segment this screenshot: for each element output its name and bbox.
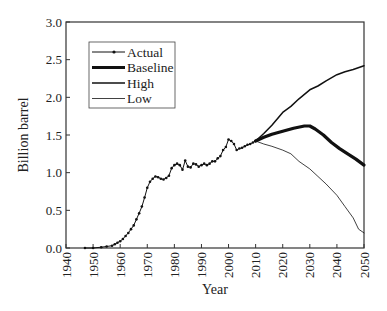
legend-label: High: [127, 76, 154, 91]
data-point: [222, 149, 225, 152]
data-point: [225, 146, 228, 149]
x-axis-title: Year: [202, 282, 228, 297]
data-point: [178, 164, 181, 167]
data-point: [151, 177, 154, 180]
data-point: [246, 143, 249, 146]
x-tick-label: 2030: [302, 252, 317, 278]
data-point: [127, 232, 130, 235]
y-axis-title: Billion barrel: [16, 97, 31, 172]
data-point: [84, 247, 87, 250]
data-point: [184, 159, 187, 162]
data-point: [176, 162, 179, 165]
x-tick-label: 1970: [140, 252, 155, 278]
data-point: [252, 141, 255, 144]
data-point: [132, 224, 135, 227]
data-point: [130, 228, 133, 231]
x-tick-label: 1980: [167, 252, 182, 278]
data-point: [105, 245, 108, 248]
data-point: [92, 247, 95, 250]
series-baseline: [256, 126, 364, 165]
series-actual: [84, 138, 257, 249]
data-point: [187, 165, 190, 168]
data-point: [195, 163, 198, 166]
y-tick-label: 1.5: [46, 128, 62, 143]
data-point: [100, 246, 103, 249]
x-axis: 1940195019601970198019902000201020202030…: [59, 244, 372, 278]
data-point: [168, 174, 171, 177]
data-point: [119, 240, 122, 243]
data-point: [113, 243, 116, 246]
x-tick-label: 2010: [248, 252, 263, 278]
x-tick-label: 2050: [357, 252, 372, 278]
y-tick-label: 0.5: [46, 203, 62, 218]
data-point: [192, 162, 195, 165]
data-point: [244, 145, 247, 148]
line-chart: 0.00.51.01.52.02.53.0 194019501960197019…: [0, 0, 387, 311]
data-point: [208, 162, 211, 165]
data-point: [206, 164, 209, 167]
data-point: [162, 178, 165, 181]
x-tick-label: 2020: [275, 252, 290, 278]
data-point: [230, 140, 233, 143]
data-point: [189, 166, 192, 169]
data-point: [111, 244, 114, 247]
data-point: [173, 164, 176, 167]
data-point: [227, 138, 230, 141]
data-point: [249, 143, 252, 146]
x-tick-label: 1960: [113, 252, 128, 278]
data-point: [124, 235, 127, 238]
data-point: [203, 162, 206, 165]
data-point: [238, 147, 241, 150]
legend-marker: [112, 50, 115, 53]
data-point: [135, 218, 138, 221]
data-point: [214, 160, 217, 163]
data-point: [211, 160, 214, 163]
data-point: [143, 196, 146, 199]
data-point: [146, 186, 149, 189]
data-point: [160, 177, 163, 180]
data-point: [241, 147, 244, 150]
legend-label: Actual: [127, 45, 163, 60]
data-point: [154, 175, 157, 178]
data-point: [141, 205, 144, 208]
data-point: [138, 212, 141, 215]
data-point: [116, 241, 119, 244]
x-tick-label: 1990: [194, 252, 209, 278]
y-tick-label: 1.0: [46, 165, 62, 180]
data-point: [181, 168, 184, 171]
x-tick-label: 1950: [86, 252, 101, 278]
data-point: [149, 180, 152, 183]
data-point: [197, 165, 200, 168]
y-tick-label: 3.0: [46, 15, 62, 30]
series-high: [256, 66, 364, 141]
data-point: [157, 176, 160, 179]
y-tick-label: 2.5: [46, 52, 62, 67]
data-point: [216, 157, 219, 160]
data-point: [219, 155, 222, 158]
legend-label: Baseline: [127, 60, 174, 75]
data-point: [165, 177, 168, 180]
data-point: [233, 143, 236, 146]
data-point: [122, 238, 125, 241]
data-point: [170, 167, 173, 170]
legend-label: Low: [127, 91, 152, 106]
legend: ActualBaselineHighLow: [89, 42, 175, 108]
data-point: [235, 149, 238, 152]
y-tick-label: 2.0: [46, 90, 62, 105]
data-point: [200, 164, 203, 167]
x-tick-label: 2040: [329, 252, 344, 278]
x-tick-label: 2000: [221, 252, 236, 278]
x-tick-label: 1940: [59, 252, 74, 278]
